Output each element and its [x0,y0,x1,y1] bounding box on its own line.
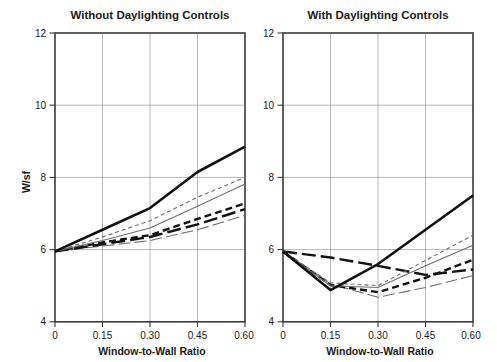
xtick-label-030-left: 0.30 [140,330,160,341]
two-panel-line-chart-figure: Without Daylighting Controls 12 10 8 6 4 [0,0,497,362]
xtick-label-060-right: 0.60 [461,330,481,341]
ytick-label-4-left: 4 [40,316,46,327]
xtick-label-0-left: 0 [52,330,58,341]
y-axis-title-left: W/sf [20,170,32,193]
ytick-label-6-left: 6 [40,244,46,255]
ytick-label-6-right: 6 [268,244,274,255]
xtick-label-045-right: 0.45 [416,330,436,341]
xtick-label-045-left: 0.45 [188,330,208,341]
figure-background [0,0,497,362]
xtick-label-015-left: 0.15 [93,330,113,341]
xtick-label-030-right: 0.30 [368,330,388,341]
xtick-label-0-right: 0 [280,330,286,341]
ytick-label-10-right: 10 [263,100,275,111]
ytick-label-12-left: 12 [35,28,47,39]
ytick-label-8-left: 8 [40,172,46,183]
x-axis-title-left: Window-to-Wall Ratio [98,345,205,357]
x-axis-title-right: Window-to-Wall Ratio [326,345,433,357]
panel-title-right: With Daylighting Controls [307,9,448,21]
xtick-label-060-left: 0.60 [234,330,254,341]
ytick-label-10-left: 10 [35,100,47,111]
ytick-label-12-right: 12 [263,28,275,39]
panel-title-left: Without Daylighting Controls [71,9,230,21]
xtick-label-015-right: 0.15 [321,330,341,341]
ytick-label-8-right: 8 [268,172,274,183]
ytick-label-4-right: 4 [268,316,274,327]
